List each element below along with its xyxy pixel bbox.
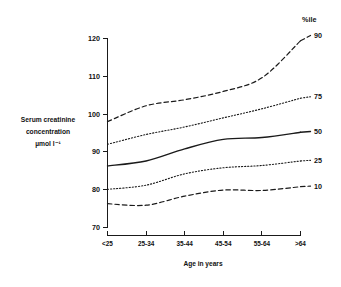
series-lines (108, 41, 301, 206)
legend-label-p50: 50 (314, 127, 322, 136)
y-axis-ticks: 708090100110120 (88, 34, 108, 232)
x-tick-label-2: 35-44 (177, 240, 194, 247)
x-axis-group: <2525-3435-4445-5455-64>64 (102, 231, 306, 247)
x-axis-title: Age in years (183, 260, 223, 268)
series-line-p25 (108, 161, 301, 189)
legend-label-p25: 25 (314, 156, 322, 165)
series-line-p10 (108, 187, 301, 206)
y-axis-title-line-2: concentration (26, 128, 70, 135)
series-line-p75 (108, 98, 301, 144)
y-axis-group: 708090100110120 (88, 34, 108, 232)
y-tick-label-100: 100 (88, 110, 100, 119)
y-tick-label-70: 70 (92, 223, 100, 232)
x-tick-label-0: <25 (102, 240, 113, 247)
x-tick-label-4: 55-64 (254, 240, 271, 247)
legend-label-p90: 90 (314, 31, 322, 40)
x-tick-label-3: 45-54 (215, 240, 232, 247)
y-axis-title-line-3: µmol l⁻¹ (35, 140, 61, 148)
chart-canvas: 708090100110120 <2525-3435-4445-5455-64>… (0, 0, 341, 287)
y-tick-label-80: 80 (92, 185, 100, 194)
x-tick-label-1: 25-34 (138, 240, 155, 247)
legend-stub-p75 (301, 97, 311, 99)
y-tick-label-120: 120 (88, 34, 100, 43)
legend-title: %ile (302, 15, 316, 24)
y-axis-title: Serum creatinine concentration µmol l⁻¹ (21, 116, 76, 148)
series-line-p90 (108, 41, 301, 122)
y-tick-label-110: 110 (88, 72, 100, 81)
legend: %ile 9075502510 (301, 15, 323, 191)
serum-creatinine-percentile-chart: 708090100110120 <2525-3435-4445-5455-64>… (0, 0, 341, 287)
legend-label-p75: 75 (314, 92, 322, 101)
y-axis-title-line-1: Serum creatinine (21, 116, 76, 123)
series-line-p50 (108, 132, 301, 166)
x-tick-label-5: >64 (295, 240, 306, 247)
legend-stub-p90 (301, 35, 311, 40)
legend-stub-p50 (301, 131, 311, 132)
x-axis-ticks: <2525-3435-4445-5455-64>64 (102, 231, 306, 247)
legend-label-p10: 10 (314, 182, 322, 191)
legend-stub-p10 (301, 186, 311, 187)
legend-stub-p25 (301, 160, 311, 161)
y-tick-label-90: 90 (92, 147, 100, 156)
